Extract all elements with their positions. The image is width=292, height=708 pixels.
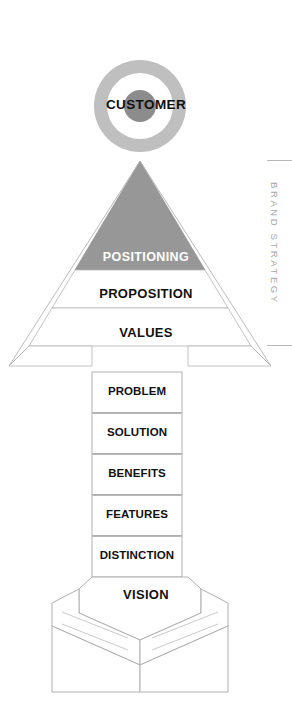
arrow-barb-right <box>188 346 271 366</box>
label-distinction: DISTINCTION <box>92 550 182 562</box>
brand-strategy-label: BRAND STRATEGY <box>262 182 280 324</box>
label-proposition: PROPOSITION <box>0 287 292 300</box>
bracket-rule-bottom <box>267 345 292 346</box>
brand-strategy-diagram: CUSTOMER POSITIONING PROPOSITION VALUES … <box>0 0 292 708</box>
label-customer: CUSTOMER <box>0 98 292 112</box>
brand-strategy-bracket: BRAND STRATEGY <box>262 160 292 370</box>
label-positioning: POSITIONING <box>0 251 292 264</box>
bracket-rule-top <box>267 160 292 161</box>
label-features: FEATURES <box>92 509 182 521</box>
label-solution: SOLUTION <box>92 427 182 439</box>
arrow-barb-left <box>9 346 92 366</box>
label-benefits: BENEFITS <box>92 468 182 480</box>
label-vision: VISION <box>0 588 292 601</box>
label-values: VALUES <box>0 326 292 339</box>
label-problem: PROBLEM <box>92 386 182 398</box>
